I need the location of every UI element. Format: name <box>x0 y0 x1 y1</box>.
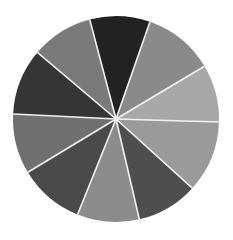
segmented-gray-circle <box>0 0 233 240</box>
